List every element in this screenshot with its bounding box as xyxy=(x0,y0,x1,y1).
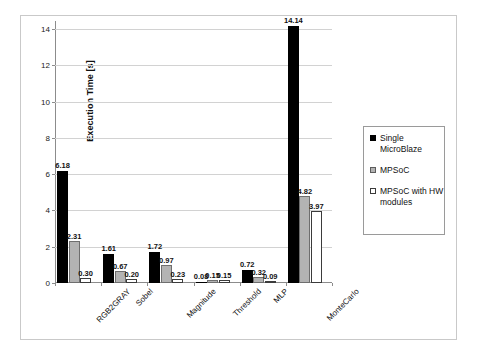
bar-value-label: 2.31 xyxy=(67,232,82,241)
y-axis-tick-label: 2 xyxy=(46,242,50,251)
legend-swatch-icon-mpsoc-hw xyxy=(370,188,376,194)
x-axis-tick-mark xyxy=(147,283,148,286)
x-axis-category-label: MLP xyxy=(272,287,290,305)
plot-area: 02468101214 6.182.310.30RGB2GRAY1.610.67… xyxy=(55,29,332,283)
x-axis-category-label: Threshold xyxy=(231,287,263,319)
bar[interactable]: 0.30 xyxy=(80,278,91,283)
chart-legend: Single MicroBlaze MPSoC MPSoC with HW mo… xyxy=(363,126,445,235)
y-axis-tick-label: 4 xyxy=(46,206,50,215)
bar-value-label: 0.15 xyxy=(217,271,232,280)
bar-value-label: 0.23 xyxy=(171,270,186,279)
legend-swatch-icon-mpsoc xyxy=(370,167,376,173)
bar[interactable]: 6.18 xyxy=(57,171,68,283)
legend-entry-mpsoc: MPSoC xyxy=(370,165,444,176)
x-axis-category-label: MonteCarlo xyxy=(325,287,361,323)
x-axis-tick-mark xyxy=(101,283,102,286)
y-axis-tick-label: 12 xyxy=(41,61,50,70)
y-axis-tick-label: 14 xyxy=(41,25,50,34)
x-axis-category-label: RGB2GRAY xyxy=(95,287,132,324)
legend-entry-single-microblaze: Single MicroBlaze xyxy=(370,133,444,155)
bar[interactable]: 0.15 xyxy=(219,280,230,283)
y-axis-tick-label: 10 xyxy=(41,97,50,106)
x-axis-tick-mark xyxy=(240,283,241,286)
bar-value-label: 14.14 xyxy=(284,16,303,25)
legend-label-single-microblaze: Single MicroBlaze xyxy=(380,133,444,155)
legend-swatch-icon-single-microblaze xyxy=(370,135,376,141)
x-axis-category-label: Sobel xyxy=(134,287,155,308)
bar-group: 14.144.823.97MonteCarlo xyxy=(288,29,322,283)
bar[interactable]: 0.23 xyxy=(172,279,183,283)
bar-group: 1.610.670.20Sobel xyxy=(103,29,137,283)
x-axis-tick-mark xyxy=(55,283,56,286)
y-axis-tick-label: 8 xyxy=(46,133,50,142)
bar[interactable]: 0.09 xyxy=(265,281,276,283)
legend-label-mpsoc: MPSoC xyxy=(380,165,409,176)
bar-value-label: 1.72 xyxy=(148,242,163,251)
bar-value-label: 1.61 xyxy=(101,244,116,253)
bar-value-label: 0.30 xyxy=(78,269,93,278)
bar-group: 6.182.310.30RGB2GRAY xyxy=(57,29,91,283)
bar[interactable]: 14.14 xyxy=(288,26,299,283)
bar-value-label: 4.82 xyxy=(298,187,313,196)
y-axis-tick-label: 0 xyxy=(46,279,50,288)
bar-value-label: 0.97 xyxy=(159,256,174,265)
legend-label-mpsoc-hw: MPSoC with HW modules xyxy=(380,186,444,208)
x-axis-tick-mark xyxy=(286,283,287,286)
bar-group: 0.080.150.15Threshold xyxy=(196,29,230,283)
bar-value-label: 3.97 xyxy=(309,202,324,211)
bar[interactable]: 0.08 xyxy=(196,282,207,284)
bar-group: 0.720.320.09MLP xyxy=(242,29,276,283)
x-axis-category-label: Magnitude xyxy=(185,287,218,320)
bar-group: 1.720.970.23Magnitude xyxy=(149,29,183,283)
y-axis-tick-label: 6 xyxy=(46,170,50,179)
bar[interactable]: 3.97 xyxy=(311,211,322,283)
bar-value-label: 0.09 xyxy=(263,272,278,281)
chart-figure-frame: Execution Time [s] 02468101214 6.182.310… xyxy=(20,15,457,340)
bar-value-label: 0.20 xyxy=(124,270,139,279)
x-axis-tick-mark xyxy=(332,283,333,286)
bars-layer: 6.182.310.30RGB2GRAY1.610.670.20Sobel1.7… xyxy=(55,29,332,283)
x-axis-tick-mark xyxy=(194,283,195,286)
bar[interactable]: 0.15 xyxy=(207,280,218,283)
legend-entry-mpsoc-hw: MPSoC with HW modules xyxy=(370,186,444,208)
bar[interactable]: 0.20 xyxy=(126,279,137,283)
bar-value-label: 6.18 xyxy=(55,161,70,170)
